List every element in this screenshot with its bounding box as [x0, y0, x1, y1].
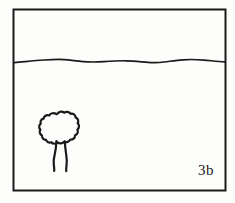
tree-trunk-right — [65, 141, 67, 171]
horizon-line — [15, 59, 226, 62]
figure-panel: 3b — [0, 0, 235, 203]
picture-frame — [14, 10, 226, 191]
figure-label: 3b — [198, 163, 214, 178]
tree-trunk-left — [54, 141, 57, 171]
tree-canopy — [39, 112, 79, 144]
